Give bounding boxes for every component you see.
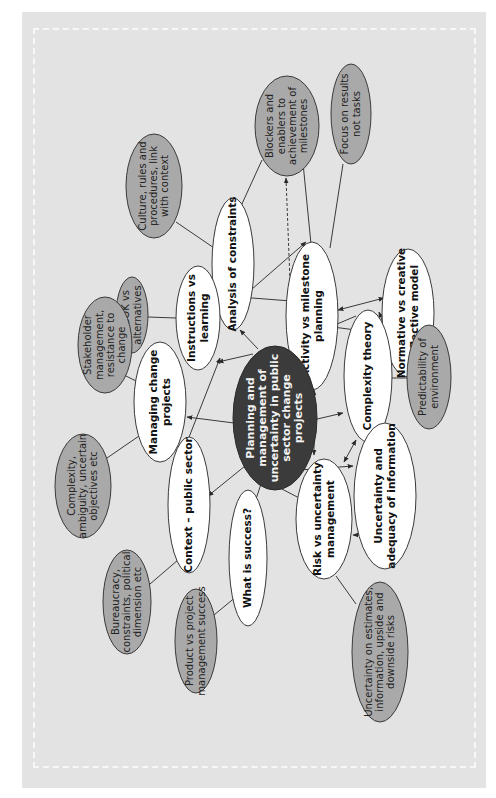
svg-text:alternatives: alternatives — [132, 285, 143, 344]
svg-text:Uncertainty and: Uncertainty and — [372, 448, 384, 543]
edge-focus-activity — [330, 164, 343, 248]
svg-text:Stakeholder: Stakeholder — [82, 314, 93, 375]
node-instructions-learning: Instructions vs learning — [176, 266, 220, 370]
svg-text:learning: learning — [198, 293, 210, 342]
svg-text:Normative vs creative: Normative vs creative — [395, 248, 407, 378]
edge-ambiguity-managing — [107, 436, 139, 458]
edge-central-context — [208, 466, 245, 496]
edge-activity-normative — [338, 298, 384, 310]
edge-analysis-context — [184, 358, 220, 450]
svg-text:What is success?: What is success? — [241, 508, 253, 608]
node-predictability: Predictability of environment — [407, 325, 451, 429]
svg-text:change: change — [116, 327, 127, 364]
svg-text:Product vs project: Product vs project — [184, 596, 195, 686]
svg-text:resistance to: resistance to — [105, 313, 116, 378]
node-product-vs-project: Product vs project management success — [175, 586, 217, 695]
svg-text:projects: projects — [292, 392, 305, 443]
svg-text:Activity vs milestone: Activity vs milestone — [299, 254, 311, 378]
node-complexity-ambiguity: Complexity, ambiguity, uncertain objecti… — [55, 434, 111, 538]
svg-text:Context – public sector: Context – public sector — [182, 436, 194, 572]
svg-text:dimension etc: dimension etc — [132, 567, 143, 638]
svg-text:management,: management, — [94, 310, 105, 380]
mind-map-diagram: Culture, rules and procedures, link with… — [0, 0, 496, 798]
edge-central-analysis — [240, 330, 258, 349]
node-complexity-theory: Complexity theory — [344, 310, 392, 442]
svg-text:Uncertainty on estimates,: Uncertainty on estimates, — [363, 587, 374, 717]
node-managing-change: Managing change projects — [134, 342, 186, 462]
node-blockers: Blockers and enablers to achievement of … — [255, 76, 319, 176]
svg-text:Complexity theory: Complexity theory — [361, 321, 373, 430]
node-context-public-sector: Context – public sector — [168, 436, 210, 573]
svg-text:Bureaucracy,: Bureaucracy, — [110, 569, 121, 635]
node-bureaucracy: Bureaucracy, constraints, political dime… — [103, 550, 151, 654]
svg-text:environment: environment — [429, 345, 440, 409]
svg-text:information, upside and: information, upside and — [374, 592, 385, 711]
edge-pmbok-instructions — [148, 317, 176, 318]
node-focus-results: Focus on results not tasks — [331, 64, 371, 164]
node-central: Planning and management of uncertainty i… — [233, 346, 317, 490]
svg-text:Blockers and: Blockers and — [264, 94, 275, 158]
svg-text:achievement of: achievement of — [287, 87, 298, 165]
edge-central-instructions — [218, 354, 253, 362]
svg-text:adequacy of information: adequacy of information — [385, 423, 397, 568]
node-uncertainty-estimates: Uncertainty on estimates, information, u… — [352, 582, 408, 722]
edge-estimates-risk — [336, 576, 356, 604]
svg-text:planning: planning — [312, 290, 324, 342]
svg-text:not tasks: not tasks — [351, 91, 362, 137]
svg-text:Focus on results: Focus on results — [339, 74, 350, 155]
svg-text:Complexity,: Complexity, — [66, 456, 77, 516]
svg-text:ambiguity, uncertain: ambiguity, uncertain — [77, 434, 88, 538]
edge-blockers-analysis — [241, 160, 262, 206]
edge-central-complexity — [313, 413, 343, 420]
svg-text:Instructions vs: Instructions vs — [185, 274, 197, 362]
edge-bureaucracy-context — [150, 560, 178, 584]
svg-text:Analysis of constraints: Analysis of constraints — [226, 196, 238, 331]
edge-central-managing — [187, 417, 234, 423]
edge-complexity-risk — [344, 440, 356, 462]
svg-text:downside risks: downside risks — [385, 615, 396, 689]
node-stakeholder: Stakeholder management, resistance to ch… — [78, 297, 132, 393]
svg-text:management success: management success — [196, 586, 207, 695]
svg-text:with context: with context — [159, 155, 170, 217]
svg-text:milestones: milestones — [298, 99, 309, 153]
svg-text:Managing change: Managing change — [147, 350, 159, 455]
svg-text:Predictability of: Predictability of — [417, 338, 428, 416]
node-what-is-success: What is success? — [229, 490, 267, 626]
node-risk-uncertainty: Risk vs uncertainty management — [296, 459, 352, 579]
svg-text:Risk vs uncertainty: Risk vs uncertainty — [311, 462, 323, 576]
svg-text:Culture, rules and: Culture, rules and — [137, 141, 148, 230]
svg-text:objectives etc: objectives etc — [88, 451, 99, 521]
svg-text:management: management — [324, 480, 336, 558]
node-uncertainty-information: Uncertainty and adequacy of information — [354, 423, 416, 569]
edge-blockers-activity — [303, 163, 311, 244]
node-culture: Culture, rules and procedures, link with… — [126, 134, 182, 238]
svg-text:procedures, link: procedures, link — [148, 146, 159, 226]
svg-text:enablers to: enablers to — [276, 98, 287, 154]
svg-text:projects: projects — [160, 378, 172, 426]
svg-text:constraints, political: constraints, political — [121, 551, 132, 652]
